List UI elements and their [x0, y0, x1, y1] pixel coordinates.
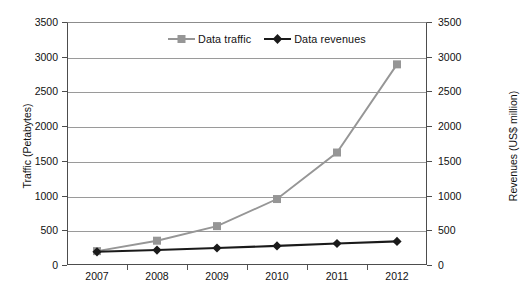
- legend-square-icon: [168, 33, 195, 45]
- x-axis-tick-label: 2011: [307, 271, 367, 282]
- x-axis-tick-mark: [247, 265, 248, 270]
- right-axis-tick-label: 1000: [438, 191, 461, 202]
- x-axis-tick-mark: [307, 265, 308, 270]
- right-axis-tick-mark: [427, 91, 432, 92]
- diamond-marker: [152, 245, 161, 254]
- right-axis-tick-mark: [427, 196, 432, 197]
- x-axis-tick-label: 2010: [247, 271, 307, 282]
- right-axis-tick-mark: [427, 22, 432, 23]
- x-axis-tick-mark: [367, 265, 368, 270]
- square-marker: [333, 149, 341, 157]
- left-axis-tick-label: 2500: [35, 86, 58, 97]
- x-axis-tick-label: 2008: [127, 271, 187, 282]
- right-axis-tick-label: 3500: [438, 17, 461, 28]
- square-marker: [213, 222, 221, 230]
- left-axis-tick-label: 0: [52, 260, 58, 271]
- dual-axis-line-chart: Traffic (Petabytes) Revenues (US$ millio…: [0, 0, 526, 301]
- right-axis-tick-label: 2500: [438, 86, 461, 97]
- square-marker: [273, 195, 281, 203]
- left-axis-tick-label: 500: [40, 225, 58, 236]
- left-axis-tick-label: 2000: [35, 121, 58, 132]
- right-axis-tick-mark: [427, 265, 432, 266]
- chart-legend: Data trafficData revenues: [168, 33, 366, 45]
- x-axis-tick-label: 2009: [187, 271, 247, 282]
- legend-entry: Data revenues: [264, 33, 366, 45]
- diamond-marker: [272, 241, 281, 250]
- right-axis-tick-label: 3000: [438, 52, 461, 63]
- x-axis-tick-mark: [187, 265, 188, 270]
- right-axis-tick-mark: [427, 161, 432, 162]
- left-axis-tick-label: 1000: [35, 191, 58, 202]
- right-axis-tick-mark: [427, 230, 432, 231]
- diamond-marker: [212, 243, 221, 252]
- left-axis-tick-mark: [62, 265, 67, 266]
- series-layer: [67, 22, 427, 265]
- diamond-marker: [392, 237, 401, 246]
- left-axis-tick-label: 1500: [35, 156, 58, 167]
- legend-entry: Data traffic: [168, 33, 251, 45]
- diamond-marker: [332, 239, 341, 248]
- legend-label: Data revenues: [294, 33, 366, 45]
- square-marker: [153, 237, 161, 245]
- right-axis-tick-label: 500: [438, 225, 456, 236]
- left-axis-tick-label: 3500: [35, 17, 58, 28]
- left-axis-tick-label: 3000: [35, 52, 58, 63]
- left-axis-title: Traffic (Petabytes): [21, 66, 33, 226]
- right-axis-tick-label: 1500: [438, 156, 461, 167]
- right-axis-tick-label: 2000: [438, 121, 461, 132]
- right-axis-tick-label: 0: [438, 260, 444, 271]
- right-axis-title: Revenues (US$ million): [507, 56, 519, 236]
- right-axis-tick-mark: [427, 126, 432, 127]
- right-axis-tick-mark: [427, 57, 432, 58]
- legend-diamond-icon: [264, 33, 291, 45]
- series-line: [97, 64, 397, 251]
- x-axis-tick-label: 2007: [67, 271, 127, 282]
- x-axis-tick-mark: [127, 265, 128, 270]
- square-marker: [393, 60, 401, 68]
- legend-label: Data traffic: [198, 33, 251, 45]
- x-axis-tick-label: 2012: [367, 271, 427, 282]
